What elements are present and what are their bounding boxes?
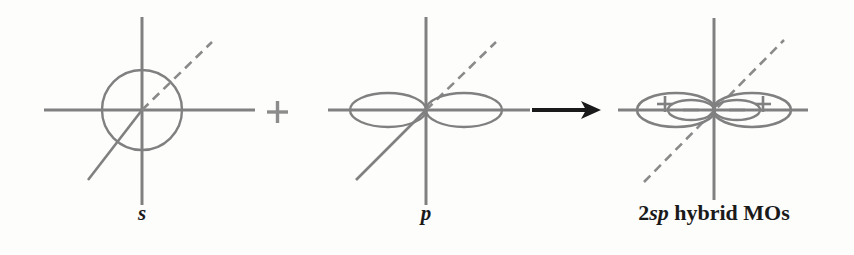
- s-orbital-label: s: [92, 203, 192, 224]
- panel-p-orbital: [328, 17, 530, 205]
- plus-operator: [267, 101, 288, 123]
- sp-hybrid-label-italic-part: sp: [649, 200, 669, 225]
- panel-s-orbital: [44, 17, 255, 205]
- p-orbital-diagonal-dashed: [426, 42, 496, 110]
- p-orbital-label: p: [376, 203, 476, 224]
- s-orbital-diagonal-solid: [88, 110, 142, 180]
- s-orbital-diagonal-dashed: [142, 42, 212, 110]
- orbital-hybridization-figure: s p 2sp hybrid MOs: [0, 0, 854, 255]
- panel-sp-hybrid-orbitals: [618, 18, 808, 200]
- sp-hybrid-label-suffix: hybrid MOs: [669, 200, 790, 225]
- sp-hybrid-label-prefix: 2: [638, 200, 649, 225]
- yields-arrow: [532, 101, 601, 119]
- sp-hybrid-orbitals-label: 2sp hybrid MOs: [614, 202, 814, 224]
